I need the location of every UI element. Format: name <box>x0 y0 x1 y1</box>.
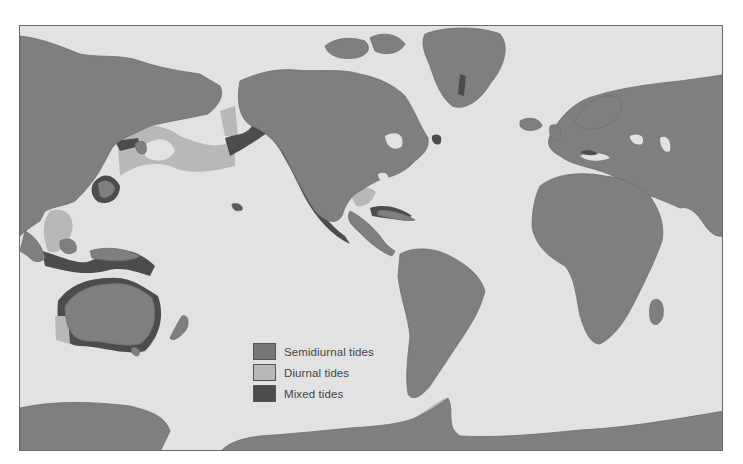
swatch-semidiurnal <box>253 343 276 360</box>
legend: Semidiurnal tides Diurnal tides Mixed ti… <box>253 341 374 404</box>
legend-label: Diurnal tides <box>284 367 349 379</box>
legend-item-mixed: Mixed tides <box>253 383 374 404</box>
legend-label: Semidiurnal tides <box>284 346 374 358</box>
swatch-mixed <box>253 385 276 402</box>
legend-item-semidiurnal: Semidiurnal tides <box>253 341 374 362</box>
tide-map: Semidiurnal tides Diurnal tides Mixed ti… <box>19 25 723 451</box>
legend-label: Mixed tides <box>284 388 343 400</box>
swatch-diurnal <box>253 364 276 381</box>
legend-item-diurnal: Diurnal tides <box>253 362 374 383</box>
